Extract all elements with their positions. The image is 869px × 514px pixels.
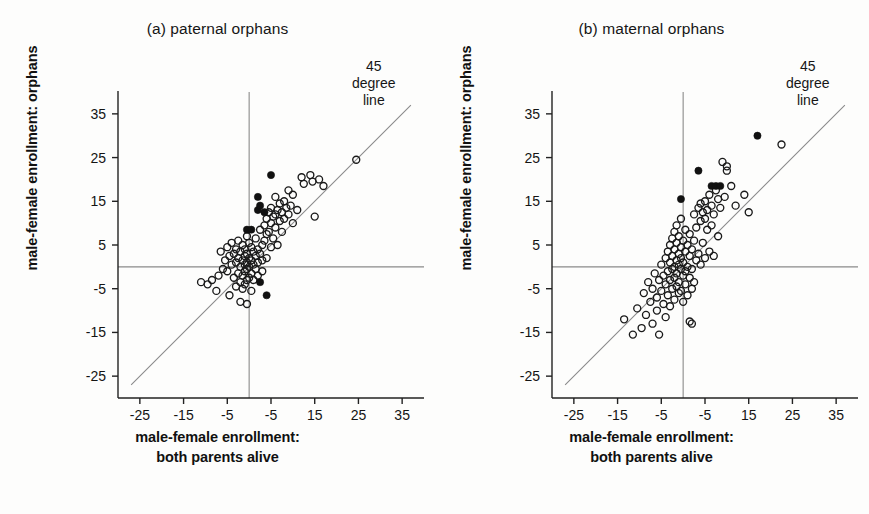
data-point-open xyxy=(320,182,327,189)
data-point-open xyxy=(215,272,222,279)
data-point-filled xyxy=(256,202,263,209)
data-point-open xyxy=(688,246,695,253)
data-point-open xyxy=(621,316,628,323)
data-point-filled xyxy=(267,171,274,178)
data-point-open xyxy=(745,209,752,216)
x-tick-label: -5 xyxy=(221,407,234,423)
y-tick-label: -15 xyxy=(520,324,540,340)
data-point-open xyxy=(274,242,281,249)
y-tick-label: 25 xyxy=(90,150,106,166)
y-tick-label: -15 xyxy=(86,324,106,340)
data-point-open xyxy=(691,279,698,286)
panel-a-x-axis-title-line1: male-female enrollment: xyxy=(0,427,435,447)
x-tick-label: 25 xyxy=(351,407,367,423)
data-point-open xyxy=(300,180,307,187)
data-point-open xyxy=(741,191,748,198)
data-point-filled xyxy=(263,292,270,299)
y-tick-label: -5 xyxy=(94,281,107,297)
data-point-open xyxy=(285,187,292,194)
data-point-open xyxy=(715,233,722,240)
x-tick-label: -25 xyxy=(130,407,150,423)
data-point-open xyxy=(671,296,678,303)
x-tick-label: 15 xyxy=(741,407,757,423)
data-point-open xyxy=(629,331,636,338)
data-point-open xyxy=(204,281,211,288)
x-tick-label: 25 xyxy=(785,407,801,423)
y-tick-label: 35 xyxy=(524,106,540,122)
data-points-layer xyxy=(198,156,360,307)
panel-b-x-axis-title-line2: both parents alive xyxy=(434,447,869,467)
data-point-open xyxy=(259,268,266,275)
data-point-open xyxy=(719,158,726,165)
data-point-filled xyxy=(717,182,724,189)
data-point-open xyxy=(235,237,242,244)
data-point-filled xyxy=(261,209,268,216)
data-point-open xyxy=(649,320,656,327)
y-tick-label: -5 xyxy=(528,281,541,297)
data-point-open xyxy=(230,274,237,281)
panel-a-x-axis-title-line2: both parents alive xyxy=(0,447,435,467)
data-point-open xyxy=(662,314,669,321)
x-tick-label: -5 xyxy=(655,407,668,423)
y-tick-label: -25 xyxy=(86,368,106,384)
data-point-open xyxy=(706,191,713,198)
data-point-open xyxy=(224,244,231,251)
data-point-open xyxy=(702,255,709,262)
data-point-open xyxy=(316,176,323,183)
data-point-filled xyxy=(256,279,263,286)
data-point-filled xyxy=(254,193,261,200)
y-tick-label: 5 xyxy=(532,237,540,253)
data-point-open xyxy=(222,257,229,264)
data-point-open xyxy=(656,276,663,283)
y-tick-label: 15 xyxy=(90,193,106,209)
data-points-layer xyxy=(621,132,785,338)
y-tick-label: 15 xyxy=(524,193,540,209)
data-point-open xyxy=(289,191,296,198)
panel-a-x-axis-title: male-female enrollment: both parents ali… xyxy=(0,427,435,467)
data-point-open xyxy=(708,202,715,209)
x-tick-label: 35 xyxy=(394,407,410,423)
data-point-open xyxy=(213,287,220,294)
45-degree-line xyxy=(131,105,411,385)
data-point-open xyxy=(638,325,645,332)
panel-b-x-axis-title-line1: male-female enrollment: xyxy=(434,427,869,447)
panel-maternal-orphans: (b) maternal orphans male-female enrollm… xyxy=(434,0,869,514)
figure-scatter-orphan-enrollment: (a) paternal orphans male-female enrollm… xyxy=(0,0,869,514)
data-point-open xyxy=(686,231,693,238)
data-point-open xyxy=(710,252,717,259)
data-point-filled xyxy=(695,167,702,174)
data-point-open xyxy=(651,270,658,277)
data-point-open xyxy=(311,213,318,220)
data-point-open xyxy=(691,237,698,244)
data-point-open xyxy=(708,222,715,229)
data-point-open xyxy=(649,285,656,292)
data-point-open xyxy=(664,292,671,299)
x-tick-label: -15 xyxy=(173,407,193,423)
data-point-open xyxy=(270,235,277,242)
data-point-open xyxy=(691,211,698,218)
data-point-open xyxy=(653,294,660,301)
data-point-open xyxy=(252,235,259,242)
data-point-open xyxy=(693,224,700,231)
data-point-open xyxy=(272,193,279,200)
x-tick-label: -15 xyxy=(607,407,627,423)
data-point-open xyxy=(732,202,739,209)
x-tick-label: -25 xyxy=(564,407,584,423)
data-point-open xyxy=(723,167,730,174)
data-point-open xyxy=(634,305,641,312)
data-point-open xyxy=(778,141,785,148)
y-tick-label: 35 xyxy=(90,106,106,122)
data-point-open xyxy=(653,307,660,314)
data-point-open xyxy=(257,226,264,233)
data-point-filled xyxy=(677,196,684,203)
data-point-open xyxy=(217,248,224,255)
x-tick-label: -5 xyxy=(265,407,278,423)
data-point-open xyxy=(728,182,735,189)
data-point-open xyxy=(272,224,279,231)
data-point-open xyxy=(645,279,652,286)
x-tick-label: 15 xyxy=(307,407,323,423)
panel-b-x-axis-title: male-female enrollment: both parents ali… xyxy=(434,427,869,467)
data-point-open xyxy=(710,211,717,218)
data-point-open xyxy=(684,292,691,299)
data-point-open xyxy=(642,311,649,318)
